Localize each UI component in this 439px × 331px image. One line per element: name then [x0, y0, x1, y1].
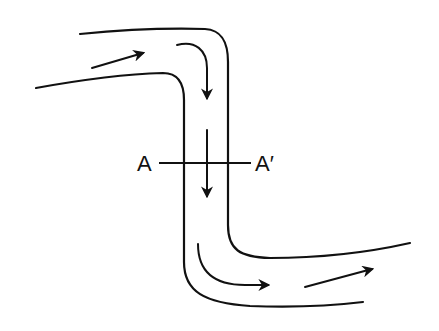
channel-wall-right: [80, 29, 410, 258]
section-label-a-prime: A′: [255, 151, 274, 176]
channel-wall-left: [36, 73, 363, 307]
flow-arrow-bend-bottom: [198, 244, 268, 285]
flow-arrow-bend-top: [177, 44, 207, 98]
channel-flow-diagram: A A′: [0, 0, 439, 331]
flow-arrow-inlet: [92, 53, 143, 68]
section-label-a: A: [137, 151, 152, 176]
flow-arrow-outlet: [305, 269, 372, 287]
